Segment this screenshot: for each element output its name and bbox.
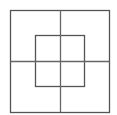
nested-squares-diagram — [0, 0, 117, 115]
